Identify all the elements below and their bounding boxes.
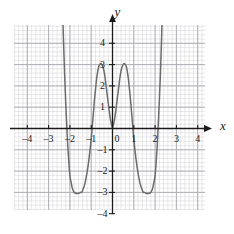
- x-tick-label--4: –4: [22, 134, 32, 144]
- graph-figure: –4–3–2–101234–4–3–2–11234xy: [0, 0, 234, 234]
- x-tick-label--3: –3: [44, 134, 54, 144]
- y-axis-name: y: [115, 5, 121, 18]
- y-tick-label-1: 1: [100, 102, 105, 112]
- y-tick-label-3: 3: [100, 60, 105, 70]
- y-tick-label--2: –2: [98, 166, 108, 176]
- x-tick-label-3: 3: [174, 134, 179, 144]
- x-axis-arrow: [204, 125, 212, 132]
- x-tick-label--2: –2: [65, 134, 75, 144]
- y-tick-label-4: 4: [100, 38, 105, 48]
- y-tick-label-2: 2: [100, 81, 105, 91]
- x-tick-label-2: 2: [153, 134, 158, 144]
- curve-curve-right: [113, 0, 165, 194]
- y-tick-label--1: –1: [98, 145, 108, 155]
- x-tick-label--1: –1: [86, 134, 96, 144]
- y-tick-label--3: –3: [98, 187, 108, 197]
- x-tick-label-0: 0: [115, 134, 120, 144]
- x-tick-label-4: 4: [195, 134, 200, 144]
- x-axis-name: x: [220, 119, 226, 132]
- coordinate-plane: [0, 0, 234, 234]
- x-tick-label-1: 1: [131, 134, 136, 144]
- y-tick-label--4: –4: [98, 209, 108, 219]
